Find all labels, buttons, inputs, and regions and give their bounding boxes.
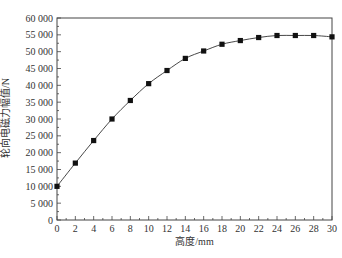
x-tick-label: 18 [217, 223, 227, 234]
x-tick-label: 2 [73, 223, 78, 234]
x-tick-label: 20 [235, 223, 245, 234]
y-tick-label: 60 000 [26, 13, 54, 24]
x-tick-label: 16 [199, 223, 209, 234]
data-point-marker [329, 34, 334, 39]
data-point-marker [219, 42, 224, 47]
data-point-marker [256, 35, 261, 40]
data-point-marker [109, 116, 114, 121]
x-tick-label: 24 [272, 223, 282, 234]
y-tick-label: 40 000 [26, 80, 54, 91]
data-point-marker [183, 56, 188, 61]
y-tick-label: 5 000 [31, 198, 54, 209]
y-tick-label: 10 000 [26, 181, 54, 192]
x-axis: 024681012141618202224262830 [55, 216, 338, 234]
x-tick-label: 0 [55, 223, 60, 234]
x-tick-label: 6 [110, 223, 115, 234]
y-tick-label: 25 000 [26, 130, 54, 141]
x-tick-label: 10 [144, 223, 154, 234]
y-tick-label: 55 000 [26, 29, 54, 40]
x-tick-label: 4 [91, 223, 96, 234]
data-point-marker [73, 161, 78, 166]
data-point-marker [128, 98, 133, 103]
y-axis-label: 轮向电磁力幅值/N [0, 78, 11, 158]
x-tick-label: 14 [180, 223, 190, 234]
y-tick-label: 45 000 [26, 63, 54, 74]
line-chart: 024681012141618202224262830 05 00010 000… [0, 0, 342, 258]
data-point-marker [311, 33, 316, 38]
data-point-marker [238, 38, 243, 43]
x-tick-label: 30 [327, 223, 337, 234]
y-tick-label: 0 [48, 215, 53, 226]
data-point-marker [164, 68, 169, 73]
x-tick-label: 22 [254, 223, 264, 234]
x-tick-label: 12 [162, 223, 172, 234]
data-point-marker [54, 184, 59, 189]
y-tick-label: 35 000 [26, 97, 54, 108]
data-series [54, 33, 334, 189]
plot-frame [57, 18, 332, 220]
x-axis-label: 高度/mm [175, 235, 214, 247]
y-tick-label: 30 000 [26, 114, 54, 125]
x-tick-label: 26 [290, 223, 300, 234]
x-tick-label: 8 [128, 223, 133, 234]
series-line [57, 35, 332, 186]
y-tick-label: 20 000 [26, 147, 54, 158]
data-point-marker [146, 81, 151, 86]
y-axis: 05 00010 00015 00020 00025 00030 00035 0… [26, 13, 62, 226]
x-tick-label: 28 [309, 223, 319, 234]
data-point-marker [274, 33, 279, 38]
y-tick-label: 15 000 [26, 164, 54, 175]
y-tick-label: 50 000 [26, 46, 54, 57]
data-point-marker [293, 33, 298, 38]
data-point-marker [201, 48, 206, 53]
data-point-marker [91, 138, 96, 143]
